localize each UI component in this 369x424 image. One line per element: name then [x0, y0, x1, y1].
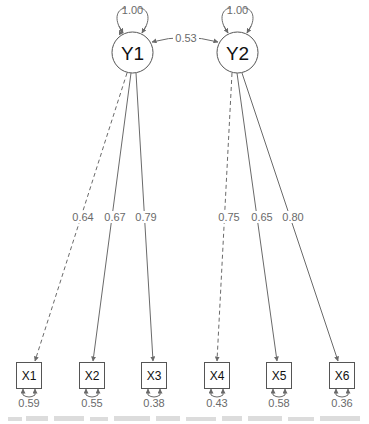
- loading-label-x5: 0.65: [251, 211, 272, 223]
- residual-x3: 0.38: [143, 389, 164, 409]
- variance-loop-y1: 1.00: [117, 4, 148, 33]
- residual-x5: 0.58: [268, 389, 289, 409]
- observed-node-x4: X4: [205, 363, 230, 389]
- residual-x4: 0.43: [206, 389, 227, 409]
- residual-label-x5: 0.58: [268, 397, 289, 409]
- covariance-label: 0.53: [175, 32, 196, 44]
- residual-x1: 0.59: [18, 389, 39, 409]
- observed-node-x5: X5: [267, 363, 292, 389]
- observed-label-x3: X3: [147, 369, 162, 383]
- observed-node-x6: X6: [330, 363, 355, 389]
- loading-y1-x3: 0.79: [134, 73, 159, 361]
- loading-label-x2: 0.67: [104, 211, 125, 223]
- loading-y1-x2: 0.67: [93, 73, 131, 361]
- loading-y2-x5: 0.65: [237, 73, 277, 361]
- caption-faded-strip: [0, 412, 369, 424]
- loading-label-x1: 0.64: [72, 211, 93, 223]
- residual-label-x3: 0.38: [143, 397, 164, 409]
- residual-label-x1: 0.59: [18, 397, 39, 409]
- observed-label-x2: X2: [85, 369, 100, 383]
- residual-label-x2: 0.55: [81, 397, 102, 409]
- observed-label-x1: X1: [22, 369, 37, 383]
- residual-label-x6: 0.36: [331, 397, 352, 409]
- latent-node-y1: Y1: [112, 32, 153, 73]
- latent-label-y2: Y2: [226, 43, 249, 64]
- variance-loop-y2: 1.00: [222, 4, 253, 33]
- loading-label-x4: 0.75: [218, 211, 239, 223]
- observed-node-x1: X1: [17, 363, 42, 389]
- residual-label-x4: 0.43: [206, 397, 227, 409]
- loading-label-x3: 0.79: [135, 211, 156, 223]
- observed-label-x4: X4: [210, 369, 225, 383]
- observed-label-x5: X5: [272, 369, 287, 383]
- loading-y2-x4: 0.75: [217, 73, 242, 361]
- residual-x6: 0.36: [331, 389, 352, 409]
- covariance-y1-y2: 0.53: [152, 32, 218, 44]
- observed-label-x6: X6: [335, 369, 350, 383]
- variance-label-y1: 1.00: [122, 4, 143, 16]
- latent-node-y2: Y2: [217, 32, 258, 73]
- variance-label-y2: 1.00: [227, 4, 248, 16]
- latent-label-y1: Y1: [121, 43, 144, 64]
- observed-node-x2: X2: [80, 363, 105, 389]
- residual-x2: 0.55: [81, 389, 102, 409]
- loading-label-x6: 0.80: [282, 211, 303, 223]
- observed-node-x3: X3: [142, 363, 167, 389]
- figure-caption: [0, 412, 369, 424]
- sem-path-diagram: 1.00 1.00 0.53 Y1 Y2 0.64 0.67 0.79: [0, 0, 369, 424]
